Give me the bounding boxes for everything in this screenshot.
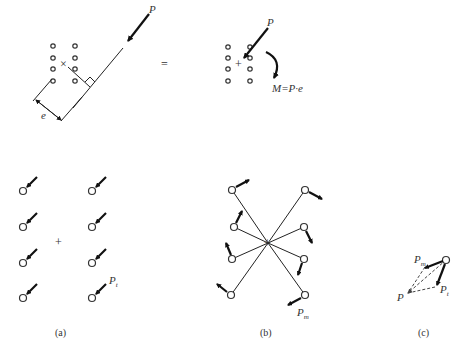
panel-b-torsional-shear: + Pm (b) xyxy=(217,180,322,339)
label-pt: Pt xyxy=(439,283,450,298)
caption-a: (a) xyxy=(55,327,66,339)
bolt-group-diagram: × P e = + P M=P·e xyxy=(0,0,470,353)
direct-shear-arrows xyxy=(27,177,106,294)
label-resultant-p: P xyxy=(396,291,404,303)
eccentric-load-figure: × P e xyxy=(33,3,156,121)
eccentricity-label: e xyxy=(41,109,46,121)
panel-a-direct-shear: + Pt (a) xyxy=(20,177,119,339)
centroid-mark: + xyxy=(235,57,242,71)
centroid-mark: + xyxy=(55,235,62,249)
equals-sign: = xyxy=(161,57,168,71)
force-label-p: P xyxy=(148,3,156,15)
centroid-mark: + xyxy=(264,236,271,250)
moment-label: M=P·e xyxy=(271,82,303,94)
force-label-pm: Pm xyxy=(296,306,309,321)
force-label-pt: Pt xyxy=(108,274,119,289)
moment-arrow xyxy=(266,52,277,78)
critical-bolt xyxy=(443,257,450,264)
caption-b: (b) xyxy=(260,327,272,339)
label-pm: Pm xyxy=(413,253,426,268)
equivalent-system-figure: + P M=P·e xyxy=(226,16,303,94)
centroid-mark: × xyxy=(60,57,67,71)
force-arrow-p xyxy=(244,28,268,58)
panel-c-resultant: Pm Pt P (c) xyxy=(396,253,450,339)
caption-c: (c) xyxy=(418,327,429,339)
force-label-p: P xyxy=(266,16,274,28)
force-arrow-p xyxy=(128,14,149,41)
